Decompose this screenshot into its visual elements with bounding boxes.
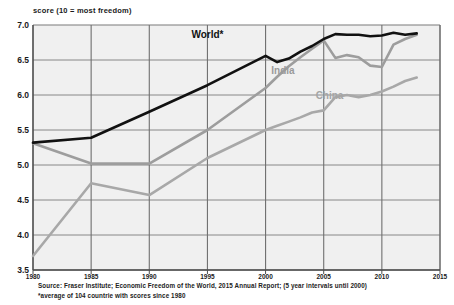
y-axis-title: score (10 = most freedom): [33, 6, 132, 15]
x-tick-label: 1990: [142, 273, 157, 280]
x-tick-label: 2000: [258, 273, 273, 280]
y-tick-label: 6.5: [17, 55, 29, 65]
x-tick-label: 2005: [316, 273, 331, 280]
x-tick-label: 2010: [375, 273, 390, 280]
y-tick-label: 5.5: [17, 125, 29, 135]
x-tick-label: 2015: [433, 273, 448, 280]
series-label-china: China: [316, 90, 344, 101]
series-label-world: World*: [191, 29, 223, 40]
chart-container: score (10 = most freedom) 7.06.56.05.55.…: [0, 0, 454, 305]
y-tick-label: 4.5: [17, 195, 29, 205]
series-label-india: India: [271, 65, 295, 76]
y-tick-label: 4.0: [17, 230, 29, 240]
economic-freedom-line-chart: score (10 = most freedom) 7.06.56.05.55.…: [0, 0, 454, 305]
y-tick-label: 5.0: [17, 160, 29, 170]
x-tick-label: 1985: [84, 273, 99, 280]
source-note-line-2: *average of 104 countrie with scores sin…: [38, 292, 186, 300]
y-tick-label: 6.0: [17, 90, 29, 100]
plot-area-background: [33, 25, 440, 270]
y-tick-label: 7.0: [17, 20, 29, 30]
x-tick-label: 1995: [200, 273, 215, 280]
x-tick-label: 1980: [26, 273, 41, 280]
source-note-line-1: Source: Fraser Institute; Economic Freed…: [38, 282, 367, 290]
